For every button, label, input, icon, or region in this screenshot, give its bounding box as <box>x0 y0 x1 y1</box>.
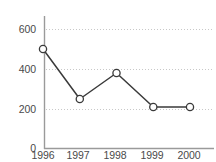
x-tick-label-2000: 2000 <box>172 150 206 161</box>
y-tick-label-600: 600 <box>2 24 36 35</box>
y-tick-label-400: 400 <box>2 64 36 75</box>
data-series-1 <box>39 45 193 110</box>
data-point-1998 <box>113 69 120 76</box>
data-point-1997 <box>76 95 83 102</box>
gridlines <box>46 30 212 110</box>
line-chart: 600 400 200 0 1996 1997 1998 1999 2000 <box>0 0 216 162</box>
data-point-1996 <box>39 45 46 52</box>
x-tick-label-1997: 1997 <box>61 150 95 161</box>
series-1-line <box>43 49 190 107</box>
data-point-1999 <box>150 103 157 110</box>
y-tick-label-200: 200 <box>2 104 36 115</box>
x-tick-label-1998: 1998 <box>98 150 132 161</box>
axis-lines <box>44 16 214 149</box>
x-tick-label-1999: 1999 <box>135 150 169 161</box>
data-point-2000 <box>186 103 193 110</box>
x-tick-label-1996: 1996 <box>26 150 60 161</box>
